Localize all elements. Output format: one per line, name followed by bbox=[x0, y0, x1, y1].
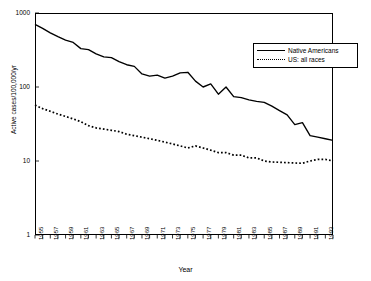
figure-container: Active cases/100,000/yr 1101001000 19551… bbox=[0, 0, 371, 281]
x-tick-label: 1991 bbox=[313, 227, 319, 240]
x-tick-label: 1967 bbox=[129, 227, 135, 240]
x-tick-label: 1959 bbox=[68, 227, 74, 240]
x-tick-label: 1965 bbox=[114, 227, 120, 240]
y-tick-label: 100 bbox=[4, 84, 30, 91]
y-tick-label: 10 bbox=[4, 158, 30, 165]
y-axis-title: Active cases/100,000/yr bbox=[10, 45, 17, 155]
x-tick-label: 1989 bbox=[297, 227, 303, 240]
x-tick-label: 1957 bbox=[53, 227, 59, 240]
legend-label-native-americans: Native Americans bbox=[288, 47, 339, 54]
legend-swatch-solid-icon bbox=[257, 47, 285, 55]
x-tick-label: 1985 bbox=[267, 227, 273, 240]
x-tick-label: 1983 bbox=[251, 227, 257, 240]
x-tick-label: 1975 bbox=[190, 227, 196, 240]
x-tick-label: 1973 bbox=[175, 227, 181, 240]
x-tick-label: 1961 bbox=[83, 227, 89, 240]
legend-item-us-all-races: US: all races bbox=[257, 55, 354, 64]
legend-swatch-dotted-icon bbox=[257, 56, 285, 64]
x-tick-label: 1979 bbox=[221, 227, 227, 240]
x-tick-label: 1987 bbox=[282, 227, 288, 240]
y-tick-label: 1000 bbox=[4, 10, 30, 17]
y-tick-label: 1 bbox=[4, 232, 30, 239]
x-tick-label: 1977 bbox=[206, 227, 212, 240]
x-tick-label: 1955 bbox=[38, 227, 44, 240]
x-tick-label: 1971 bbox=[160, 227, 166, 240]
legend-label-us-all-races: US: all races bbox=[288, 56, 325, 63]
x-tick-label: 1993 bbox=[328, 227, 334, 240]
x-tick-label: 1981 bbox=[236, 227, 242, 240]
x-tick-label: 1963 bbox=[99, 227, 105, 240]
legend-box: Native Americans US: all races bbox=[253, 43, 358, 68]
x-axis-title: Year bbox=[0, 266, 371, 273]
legend-item-native-americans: Native Americans bbox=[257, 46, 354, 55]
x-tick-label: 1969 bbox=[144, 227, 150, 240]
